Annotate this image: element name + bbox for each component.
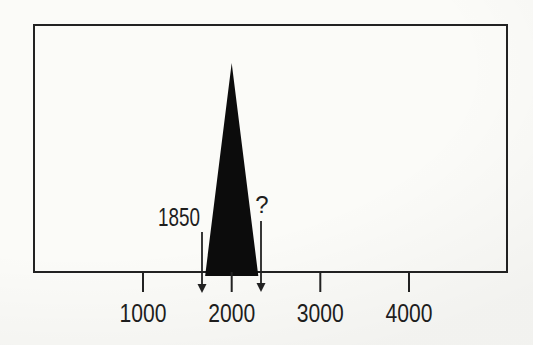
annotation-arrowhead [257, 283, 266, 292]
scanned-figure-page: 10002000300040001850? [0, 0, 533, 345]
spike-triangle [205, 63, 258, 276]
x-axis-tick-label: 3000 [297, 299, 344, 327]
annotation-label: 1850 [158, 203, 200, 231]
annotation-arrowhead [198, 284, 207, 293]
x-axis-tick-label: 1000 [120, 299, 167, 327]
x-axis-tick-label: 2000 [208, 299, 255, 327]
annotation-label: ? [255, 191, 268, 218]
x-axis-tick-label: 4000 [386, 299, 433, 327]
plot-frame [34, 25, 507, 272]
timeline-spike-chart: 10002000300040001850? [0, 0, 533, 345]
